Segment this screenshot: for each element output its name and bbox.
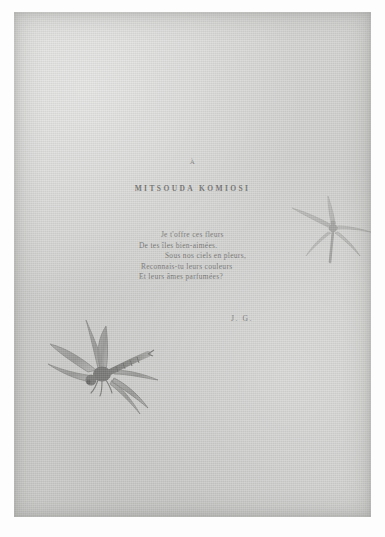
- dragonfly-wing: [48, 364, 94, 382]
- dedication-marker: À: [14, 158, 371, 166]
- dragonfly-head: [86, 375, 97, 386]
- scanned-image: À MITSOUDA KOMIOSI Je t'offre ces fleurs…: [0, 0, 385, 537]
- author-initials: J. G.: [14, 314, 371, 323]
- dragonfly-wing: [98, 326, 108, 370]
- poem-line: Reconnais-tu leurs couleurs: [139, 262, 246, 273]
- dragonfly-wing: [112, 378, 148, 408]
- dragonfly-large-illustration: [36, 312, 176, 432]
- dragonfly-wing: [50, 344, 96, 372]
- dragonfly-abdomen: [110, 354, 148, 372]
- dragonfly-abdomen-segments: [116, 357, 139, 372]
- dragonfly-wing: [114, 370, 158, 380]
- dragonfly-tail: [148, 350, 154, 356]
- book-page: À MITSOUDA KOMIOSI Je t'offre ces fleurs…: [14, 12, 371, 517]
- dedicatee-name: MITSOUDA KOMIOSI: [14, 184, 371, 193]
- dragonfly-legs: [91, 380, 112, 396]
- poem: Je t'offre ces fleurs De tes îles bien-a…: [14, 230, 371, 283]
- dragonfly-wing: [328, 196, 335, 223]
- poem-line: Et leurs âmes parfumées?: [139, 272, 246, 283]
- dragonfly-wing: [292, 208, 330, 227]
- poem-lines: Je t'offre ces fleurs De tes îles bien-a…: [139, 230, 246, 283]
- poem-line: Je t'offre ces fleurs: [139, 230, 246, 241]
- dragonfly-head: [330, 220, 335, 225]
- poem-line: De tes îles bien-aimées.: [139, 241, 246, 252]
- dragonfly-eye: [86, 380, 90, 384]
- poem-line: Sous nos ciels en pleurs,: [139, 251, 246, 262]
- dragonfly-wing: [86, 320, 104, 368]
- dragonfly-wing: [110, 380, 140, 414]
- dragonfly-thorax: [93, 367, 111, 382]
